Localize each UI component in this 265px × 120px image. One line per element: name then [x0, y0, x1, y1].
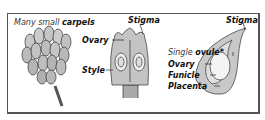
label-stigma-1: Stigma [128, 16, 160, 25]
label-funicle: Funicle [168, 71, 200, 80]
label-ovary-1: Ovary [82, 36, 109, 45]
label-stigma-2: Stigma [226, 16, 258, 25]
label-placenta: Placenta [168, 82, 207, 91]
label-single-ovule: Single ovule* [168, 48, 224, 57]
label-ovary-2: Ovary [168, 60, 195, 69]
label-style: Style [82, 66, 105, 75]
carpel-cluster-illustration [22, 26, 71, 106]
section-illustration [106, 24, 149, 98]
caption-many-small-carpels: Many small carpels [14, 18, 95, 27]
